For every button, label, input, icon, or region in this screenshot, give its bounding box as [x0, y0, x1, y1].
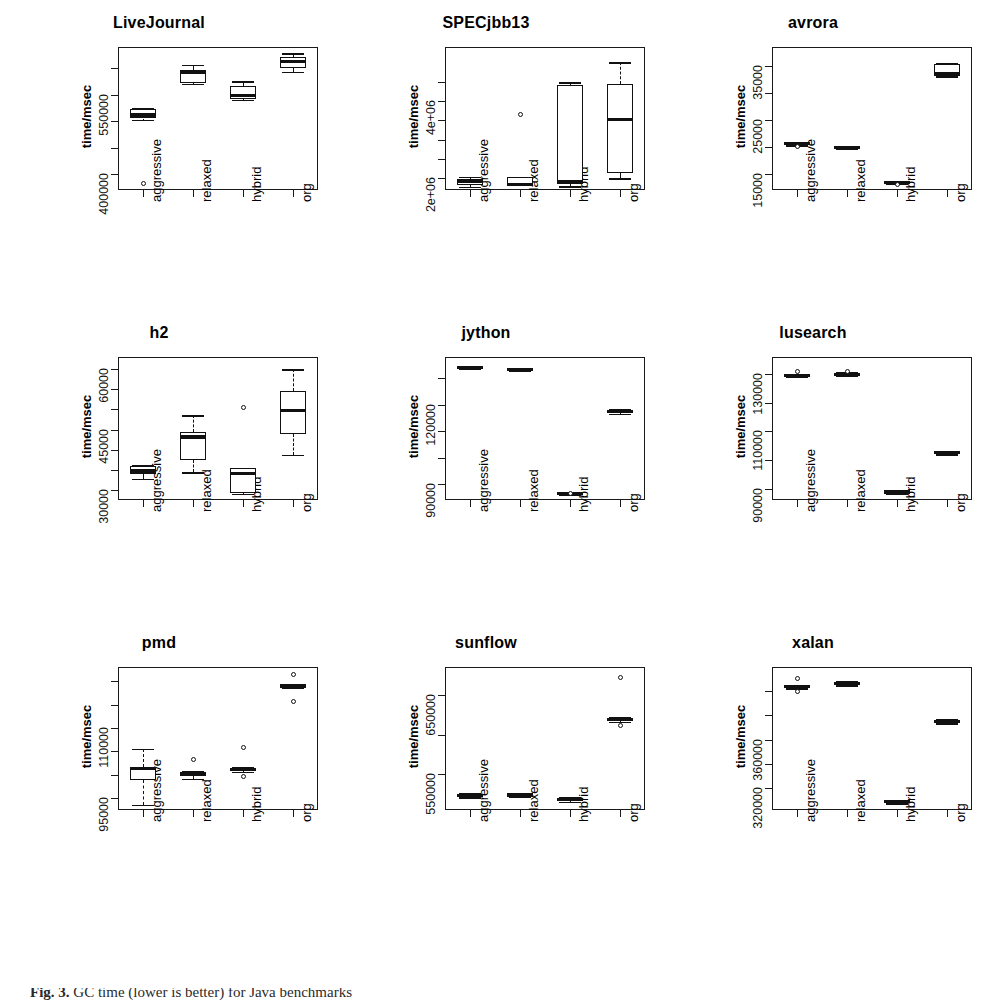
x-axis-tick-label: org [953, 803, 968, 822]
panel-title: SPECjbb13 [327, 14, 645, 32]
whisker-cap-lower [232, 494, 254, 495]
outlier-point [795, 369, 800, 374]
x-axis-tick-label: relaxed [199, 469, 214, 512]
y-axis-title: time/msec [79, 366, 94, 486]
y-axis-title: time/msec [406, 676, 421, 796]
y-axis-title: time/msec [406, 366, 421, 486]
median-line [280, 60, 306, 63]
x-axis-tick-label: aggressive [803, 759, 818, 822]
x-axis-tick [847, 500, 848, 507]
whisker-cap-lower [509, 371, 531, 372]
y-axis-tick [765, 147, 772, 148]
outlier-point [618, 723, 623, 728]
outlier-point [568, 491, 573, 496]
panel-title: xalan [654, 634, 972, 652]
whisker-cap-upper [559, 82, 581, 83]
x-axis-tick [193, 810, 194, 817]
y-axis-tick [111, 470, 118, 471]
y-axis-tick [765, 120, 772, 121]
plot-area [445, 357, 645, 500]
y-axis-tick-label: 45000 [97, 429, 111, 464]
x-axis-tick [143, 190, 144, 197]
x-axis-tick [293, 810, 294, 817]
y-axis-tick [765, 66, 772, 67]
outlier-point [895, 182, 900, 187]
y-axis-tick-label: 30000 [97, 489, 111, 524]
median-line [934, 72, 960, 75]
median-line [180, 773, 206, 776]
panel-lusearch: lusearch90000110000130000time/msecaggres… [654, 310, 994, 620]
outlier-point [291, 699, 296, 704]
whisker-cap-lower [132, 479, 154, 480]
y-axis-tick-label: 95000 [97, 797, 111, 832]
panel-sunflow: sunflow550000650000time/msecaggressivere… [327, 620, 667, 930]
x-axis-tick [293, 190, 294, 197]
y-axis-tick [438, 140, 445, 141]
plot-area [772, 357, 972, 500]
y-axis-tick [765, 93, 772, 94]
y-axis-tick-label: 60000 [97, 368, 111, 403]
x-axis-tick-label: org [953, 493, 968, 512]
x-axis-tick [947, 810, 948, 817]
panel-livejournal: LiveJournal400000550000time/msecaggressi… [0, 0, 340, 310]
median-line [884, 490, 910, 493]
whisker-cap-lower [132, 805, 154, 806]
whisker-cap-lower [936, 723, 958, 724]
outlier-point [618, 675, 623, 680]
x-axis-tick [470, 190, 471, 197]
y-axis-tick-label: 90000 [751, 488, 765, 523]
x-axis-tick-label: relaxed [526, 469, 541, 512]
x-axis-tick [897, 810, 898, 817]
y-axis-tick-label: 25000 [751, 119, 765, 154]
y-axis-title: time/msec [79, 56, 94, 176]
x-axis-tick-label: aggressive [476, 759, 491, 822]
y-axis-tick-label: 120000 [424, 404, 438, 446]
y-axis-tick [765, 715, 772, 716]
y-axis-tick [111, 681, 118, 682]
x-axis-tick [243, 810, 244, 817]
x-axis-tick [293, 500, 294, 507]
outlier-point [241, 774, 246, 779]
median-line [230, 472, 256, 475]
whisker-cap-lower [936, 454, 958, 455]
whisker-cap-lower [836, 376, 858, 377]
y-axis-tick-label: 90000 [424, 483, 438, 518]
median-line [934, 720, 960, 723]
x-axis-tick-label: aggressive [149, 449, 164, 512]
x-axis-tick [143, 500, 144, 507]
y-axis-tick-label: 35000 [751, 65, 765, 100]
whisker-cap-upper [282, 53, 304, 54]
whisker-cap-lower [132, 120, 154, 121]
median-line [130, 113, 156, 116]
whisker-cap-lower [282, 72, 304, 73]
y-axis-tick-label: 320000 [751, 787, 765, 829]
x-axis-tick [193, 190, 194, 197]
y-axis-tick [765, 788, 772, 789]
x-axis-tick-label: org [626, 493, 641, 512]
x-axis-tick-label: relaxed [853, 779, 868, 822]
x-axis-tick [470, 500, 471, 507]
x-axis-tick [143, 810, 144, 817]
y-axis-tick [111, 430, 118, 431]
y-axis-tick [438, 695, 445, 696]
median-line [507, 793, 533, 796]
outlier-point [795, 689, 800, 694]
whisker-cap-lower [182, 472, 204, 473]
y-axis-tick-label: 550000 [424, 773, 438, 815]
median-line [457, 794, 483, 797]
x-axis-tick [947, 190, 948, 197]
median-line [607, 718, 633, 721]
whisker-cap-lower [182, 84, 204, 85]
y-axis-title: time/msec [733, 56, 748, 176]
y-axis-title: time/msec [79, 676, 94, 796]
panel-title: avrora [654, 14, 972, 32]
x-axis-tick-label: relaxed [853, 469, 868, 512]
median-line [180, 71, 206, 74]
y-axis-tick [438, 431, 445, 432]
x-axis-tick-label: hybrid [249, 787, 264, 822]
whisker-cap-lower [559, 186, 581, 187]
x-axis-tick [243, 500, 244, 507]
y-axis-tick-label: 550000 [97, 94, 111, 136]
y-axis-tick-label: 130000 [751, 373, 765, 415]
y-axis-tick [765, 489, 772, 490]
